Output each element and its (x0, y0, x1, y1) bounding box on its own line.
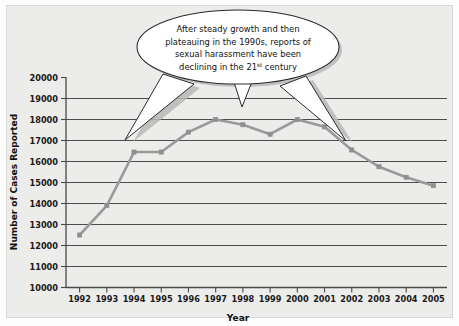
callout-line-3: sexual harassment have been (175, 49, 301, 59)
ytick-label: 13000 (30, 220, 59, 230)
xtick-label: 2000 (286, 294, 309, 304)
data-point-marker (322, 125, 326, 129)
callout-tail-left (125, 74, 194, 140)
y-tick-marks (61, 78, 66, 288)
xtick-label: 1992 (68, 294, 91, 304)
data-point-marker (295, 117, 299, 121)
xtick-label: 1998 (231, 294, 254, 304)
ytick-label: 12000 (30, 241, 59, 251)
y-tick-labels: 20000 19000 18000 17000 16000 15000 1400… (30, 73, 59, 293)
gridlines (66, 99, 447, 267)
data-point-marker (105, 204, 109, 208)
callout-line-2: plateauing in the 1990s, reports of (165, 37, 312, 47)
xtick-label: 2005 (422, 294, 445, 304)
xtick-label: 1995 (150, 294, 173, 304)
x-tick-labels: 1992199319941995199619971998199920002001… (68, 294, 445, 304)
ytick-label: 11000 (30, 262, 59, 272)
data-point-marker (377, 165, 381, 169)
data-line-series-0 (80, 120, 434, 236)
xtick-label: 1996 (177, 294, 200, 304)
chart-figure: 20000 19000 18000 17000 16000 15000 1400… (0, 0, 459, 326)
xtick-label: 1993 (95, 294, 118, 304)
data-point-marker (241, 123, 245, 127)
data-point-marker (268, 132, 272, 136)
ytick-label: 20000 (30, 73, 59, 83)
xtick-label: 2003 (368, 294, 391, 304)
data-point-marker (186, 130, 190, 134)
xtick-label: 2002 (340, 294, 363, 304)
callout-line-1: After steady growth and then (177, 24, 300, 34)
ytick-label: 17000 (30, 136, 59, 146)
callout-bubble (137, 10, 339, 84)
data-point-marker (214, 117, 218, 121)
data-point-marker (404, 175, 408, 179)
x-tick-marks (80, 288, 434, 293)
data-point-marker (78, 233, 82, 237)
xtick-label: 1997 (204, 294, 227, 304)
xtick-label: 1994 (123, 294, 146, 304)
y-axis-title: Number of Cases Reported (9, 114, 19, 250)
xtick-label: 2001 (313, 294, 336, 304)
data-point-marker (431, 184, 435, 188)
x-axis-title: Year (226, 313, 250, 323)
data-point-marker (350, 148, 354, 152)
ytick-label: 10000 (30, 283, 59, 293)
ytick-label: 15000 (30, 178, 59, 188)
ytick-label: 16000 (30, 157, 59, 167)
ytick-label: 14000 (30, 199, 59, 209)
xtick-label: 1999 (259, 294, 282, 304)
chart-svg: 20000 19000 18000 17000 16000 15000 1400… (0, 0, 459, 326)
ytick-label: 18000 (30, 115, 59, 125)
xtick-label: 2004 (395, 294, 418, 304)
callout-line-4: declining in the 21st century (179, 62, 297, 72)
data-point-marker (159, 150, 163, 154)
data-point-marker (132, 150, 136, 154)
ytick-label: 19000 (30, 94, 59, 104)
